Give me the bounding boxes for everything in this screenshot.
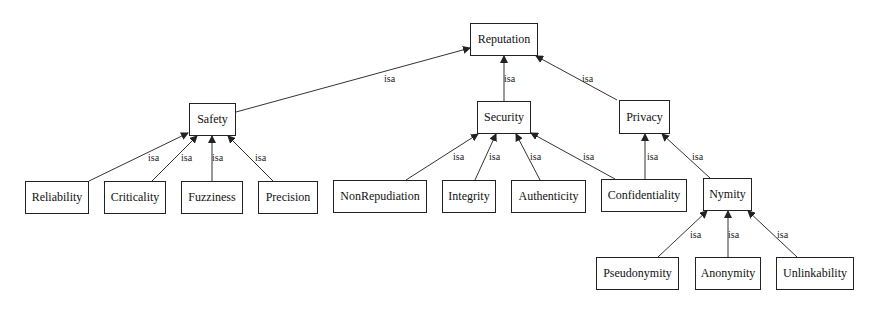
- node-authenticity: Authenticity: [511, 180, 586, 213]
- node-security: Security: [477, 101, 531, 134]
- edge-unlinkability-nymity: [748, 211, 797, 257]
- edge-label: isa: [181, 152, 192, 163]
- edge-precision-safety: [228, 136, 273, 181]
- edge-safety-reputation: [236, 48, 470, 112]
- edge-label: isa: [504, 73, 515, 84]
- isa-diagram: isa isa isa isa isa isa isa isa isa isa …: [0, 0, 878, 310]
- edge-label: isa: [777, 229, 788, 240]
- edge-label: isa: [728, 229, 739, 240]
- edge-reliability-safety: [89, 133, 188, 181]
- edge-confidentiality-security: [531, 133, 615, 179]
- node-precision: Precision: [258, 181, 318, 214]
- node-safety: Safety: [189, 103, 236, 136]
- node-reliability: Reliability: [25, 181, 89, 214]
- edge-label: isa: [582, 73, 593, 84]
- edge-nonrepudiation-security: [406, 134, 478, 180]
- edge-label: isa: [690, 229, 701, 240]
- node-integrity: Integrity: [442, 180, 496, 213]
- edge-label: isa: [212, 152, 223, 163]
- edge-label: isa: [384, 73, 395, 84]
- edge-label: isa: [530, 151, 541, 162]
- edge-label: isa: [692, 151, 703, 162]
- node-privacy: Privacy: [619, 100, 670, 134]
- edge-label: isa: [148, 152, 159, 163]
- node-criticality: Criticality: [104, 181, 166, 214]
- edge-label: isa: [255, 152, 266, 163]
- node-confidentiality: Confidentiality: [601, 179, 687, 212]
- node-nonrepudiation: NonRepudiation: [333, 180, 427, 213]
- edge-label: isa: [453, 151, 464, 162]
- node-anonymity: Anonymity: [695, 257, 761, 290]
- edge-label: isa: [647, 151, 658, 162]
- edge-label: isa: [583, 151, 594, 162]
- node-reputation: Reputation: [470, 23, 538, 56]
- node-unlinkability: Unlinkability: [776, 257, 854, 290]
- edge-privacy-reputation: [536, 56, 617, 100]
- node-pseudonymity: Pseudonymity: [596, 257, 679, 290]
- node-nymity: Nymity: [703, 178, 752, 211]
- edge-label: isa: [489, 151, 500, 162]
- node-fuzziness: Fuzziness: [181, 181, 243, 214]
